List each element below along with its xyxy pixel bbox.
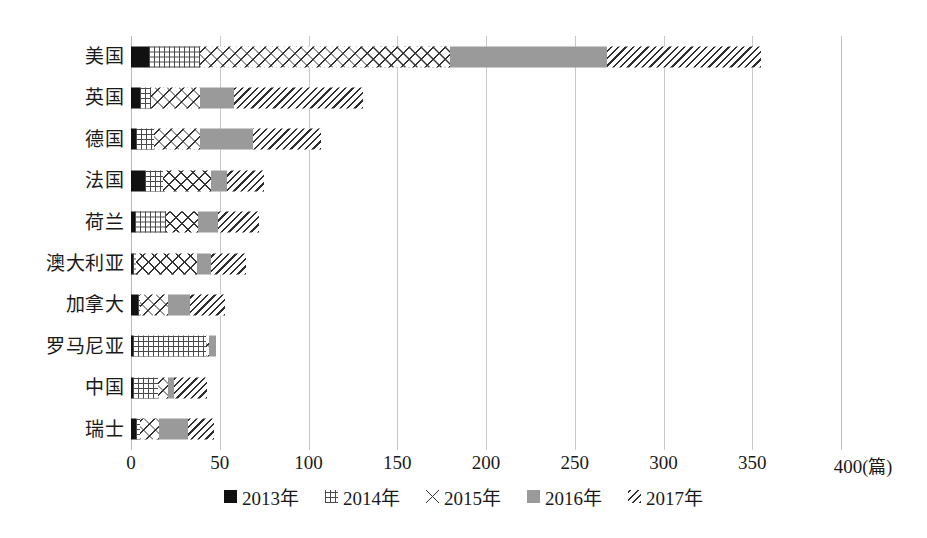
bar-segment-2017年	[253, 129, 320, 150]
bar-segment-2016年	[168, 295, 189, 316]
bar-segment-2014年	[133, 336, 206, 357]
bar-row	[131, 119, 841, 160]
bar-segment-2014年	[140, 88, 151, 109]
chart-legend: 2013年2014年2015年2016年2017年	[0, 483, 927, 510]
bar-segment-2013年	[131, 46, 149, 67]
plot-area	[131, 36, 841, 450]
category-label-0: 美国	[85, 36, 124, 77]
legend-swatch-icon	[527, 490, 540, 503]
bar-segment-2017年	[234, 88, 364, 109]
legend-item-2013年[interactable]: 2013年	[224, 483, 299, 510]
bar-segment-2015年	[200, 46, 450, 67]
bar-segment-2014年	[145, 170, 163, 191]
bar-row	[131, 77, 841, 118]
stacked-bar-澳大利亚	[131, 253, 246, 274]
value-tick-400: 400(篇)	[834, 452, 893, 478]
bar-segment-2014年	[135, 212, 167, 233]
value-axis-labels: 050100150200250300350400(篇)	[0, 452, 927, 480]
bar-segment-2014年	[133, 377, 158, 398]
category-label-5: 澳大利亚	[46, 243, 124, 284]
value-tick-250: 250	[561, 452, 590, 474]
value-tick-350: 350	[738, 452, 767, 474]
legend-label: 2017年	[646, 483, 703, 510]
bar-segment-2015年	[166, 212, 198, 233]
category-label-4: 荷兰	[85, 202, 124, 243]
bar-row	[131, 202, 841, 243]
bar-segment-2015年	[163, 170, 211, 191]
legend-swatch-icon	[325, 490, 338, 503]
bar-segment-2017年	[190, 295, 226, 316]
legend-swatch-icon	[426, 490, 439, 503]
category-label-2: 德国	[85, 119, 124, 160]
bar-segment-2017年	[227, 170, 264, 191]
bar-segment-2015年	[140, 295, 168, 316]
stacked-bar-德国	[131, 129, 321, 150]
value-tick-50: 50	[210, 452, 229, 474]
value-tick-300: 300	[649, 452, 678, 474]
category-label-7: 罗马尼亚	[46, 326, 124, 367]
unit-label: (篇)	[862, 457, 892, 477]
bar-segment-2017年	[188, 419, 215, 440]
legend-label: 2016年	[545, 483, 602, 510]
legend-item-2017年[interactable]: 2017年	[628, 483, 703, 510]
stacked-bar-chart: 美国英国德国法国荷兰澳大利亚加拿大罗马尼亚中国瑞士 05010015020025…	[0, 0, 927, 538]
bar-segment-2017年	[218, 212, 259, 233]
value-tick-number: 400	[834, 456, 863, 477]
legend-swatch-icon	[224, 490, 237, 503]
legend-label: 2014年	[343, 483, 400, 510]
category-label-1: 英国	[85, 77, 124, 118]
legend-item-2014年[interactable]: 2014年	[325, 483, 400, 510]
stacked-bar-英国	[131, 88, 363, 109]
category-axis-labels: 美国英国德国法国荷兰澳大利亚加拿大罗马尼亚中国瑞士	[0, 36, 124, 450]
stacked-bar-加拿大	[131, 295, 225, 316]
value-tick-200: 200	[472, 452, 501, 474]
legend-label: 2013年	[242, 483, 299, 510]
bar-segment-2015年	[151, 88, 201, 109]
bar-segment-2015年	[154, 129, 200, 150]
category-label-8: 中国	[85, 367, 124, 408]
bar-segment-2014年	[136, 129, 154, 150]
stacked-bar-瑞士	[131, 419, 214, 440]
legend-item-2016年[interactable]: 2016年	[527, 483, 602, 510]
value-tick-150: 150	[383, 452, 412, 474]
stacked-bar-法国	[131, 170, 264, 191]
bar-row	[131, 284, 841, 325]
bar-segment-2016年	[200, 129, 253, 150]
legend-item-2015年[interactable]: 2015年	[426, 483, 501, 510]
bar-segment-2016年	[209, 336, 216, 357]
bar-row	[131, 326, 841, 367]
category-label-9: 瑞士	[85, 409, 124, 450]
bar-segment-2016年	[450, 46, 606, 67]
stacked-bar-美国	[131, 46, 761, 67]
bar-segment-2016年	[198, 212, 218, 233]
bar-segment-2014年	[149, 46, 200, 67]
bar-row	[131, 243, 841, 284]
bar-row	[131, 160, 841, 201]
bar-segment-2017年	[174, 377, 208, 398]
bar-rows	[131, 36, 841, 450]
bar-row	[131, 409, 841, 450]
bar-segment-2013年	[131, 88, 140, 109]
bar-segment-2015年	[158, 377, 169, 398]
bar-segment-2017年	[211, 253, 247, 274]
bar-segment-2015年	[140, 419, 160, 440]
bar-segment-2016年	[200, 88, 234, 109]
stacked-bar-荷兰	[131, 212, 259, 233]
bar-segment-2016年	[197, 253, 211, 274]
legend-label: 2015年	[444, 483, 501, 510]
gridline-400	[841, 36, 842, 450]
bar-row	[131, 367, 841, 408]
bar-segment-2013年	[131, 295, 138, 316]
value-tick-0: 0	[126, 452, 136, 474]
legend-swatch-icon	[628, 490, 641, 503]
bar-segment-2016年	[211, 170, 227, 191]
bar-segment-2015年	[136, 253, 196, 274]
stacked-bar-中国	[131, 377, 207, 398]
value-tick-100: 100	[294, 452, 323, 474]
stacked-bar-罗马尼亚	[131, 336, 216, 357]
bar-segment-2017年	[607, 46, 761, 67]
category-label-3: 法国	[85, 160, 124, 201]
bar-segment-2013年	[131, 170, 145, 191]
bar-segment-2016年	[159, 419, 187, 440]
category-label-6: 加拿大	[66, 284, 125, 325]
